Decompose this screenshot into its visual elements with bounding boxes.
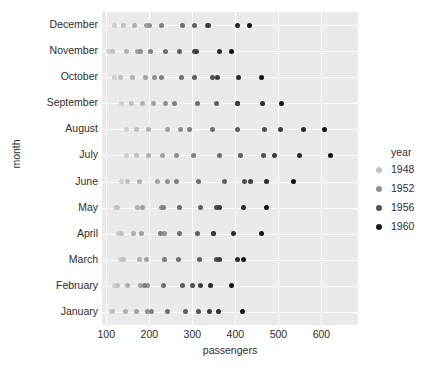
data-point bbox=[208, 283, 213, 288]
data-point bbox=[259, 75, 264, 80]
data-point bbox=[140, 205, 145, 210]
data-point bbox=[163, 101, 168, 106]
data-point bbox=[196, 179, 201, 184]
y-tick-label-january: January bbox=[2, 306, 98, 317]
data-point bbox=[125, 179, 130, 184]
plot-panel bbox=[102, 12, 358, 325]
data-point bbox=[115, 205, 120, 210]
data-point bbox=[159, 75, 164, 80]
data-point bbox=[165, 309, 170, 314]
data-point bbox=[161, 205, 166, 210]
data-point bbox=[155, 179, 160, 184]
data-point bbox=[236, 75, 241, 80]
y-gridline bbox=[102, 129, 358, 130]
data-point bbox=[110, 309, 115, 314]
x-tick-label-500: 500 bbox=[258, 328, 298, 340]
data-point bbox=[139, 231, 144, 236]
data-point bbox=[217, 257, 222, 262]
data-point bbox=[183, 309, 188, 314]
data-point bbox=[210, 127, 215, 132]
data-point bbox=[132, 23, 137, 28]
legend: year 1948195219561960 bbox=[372, 146, 442, 242]
data-point bbox=[215, 75, 220, 80]
data-point bbox=[192, 75, 197, 80]
y-tick-label-march: March bbox=[2, 254, 98, 265]
data-point bbox=[207, 309, 212, 314]
data-point bbox=[137, 257, 142, 262]
data-point bbox=[130, 75, 135, 80]
x-tick-label-100: 100 bbox=[86, 328, 126, 340]
y-tick-label-may: May bbox=[2, 202, 98, 213]
legend-item-label: 1960 bbox=[391, 220, 414, 232]
data-point bbox=[241, 205, 246, 210]
x-tick-label-600: 600 bbox=[301, 328, 341, 340]
legend-item-1960: 1960 bbox=[372, 219, 442, 236]
data-point bbox=[229, 49, 234, 54]
data-point bbox=[174, 179, 179, 184]
data-point bbox=[115, 283, 120, 288]
data-point bbox=[161, 283, 166, 288]
data-point bbox=[159, 23, 164, 28]
data-point bbox=[180, 23, 185, 28]
data-point bbox=[147, 23, 152, 28]
data-point bbox=[131, 231, 136, 236]
data-point bbox=[264, 205, 269, 210]
legend-item-label: 1952 bbox=[391, 182, 414, 194]
data-point bbox=[248, 179, 253, 184]
data-point bbox=[235, 101, 240, 106]
data-point bbox=[118, 75, 123, 80]
y-tick-label-february: February bbox=[2, 280, 98, 291]
data-point bbox=[297, 153, 302, 158]
data-point bbox=[235, 23, 240, 28]
data-point bbox=[146, 153, 151, 158]
data-point bbox=[119, 101, 124, 106]
data-point bbox=[152, 75, 157, 80]
data-point bbox=[240, 309, 245, 314]
legend-item-label: 1948 bbox=[391, 163, 414, 175]
data-point bbox=[187, 127, 192, 132]
data-point bbox=[165, 127, 170, 132]
x-gridline bbox=[106, 12, 107, 325]
data-point bbox=[151, 101, 156, 106]
data-point bbox=[123, 309, 128, 314]
x-tick-label-200: 200 bbox=[129, 328, 169, 340]
data-point bbox=[206, 23, 211, 28]
y-axis-label: month bbox=[10, 124, 22, 184]
data-point bbox=[124, 49, 129, 54]
y-gridline bbox=[102, 25, 358, 26]
data-point bbox=[178, 127, 183, 132]
data-point bbox=[192, 23, 197, 28]
data-point bbox=[264, 179, 269, 184]
data-point bbox=[134, 309, 139, 314]
y-gridline bbox=[102, 77, 358, 78]
data-point bbox=[247, 23, 252, 28]
data-point bbox=[235, 127, 240, 132]
data-point bbox=[129, 101, 134, 106]
data-point bbox=[198, 283, 203, 288]
data-point bbox=[172, 101, 177, 106]
data-point bbox=[260, 101, 265, 106]
legend-marker-icon bbox=[376, 205, 382, 211]
x-gridline bbox=[321, 12, 322, 325]
y-gridline bbox=[102, 155, 358, 156]
y-tick-label-october: October bbox=[2, 71, 98, 82]
data-point bbox=[191, 153, 196, 158]
data-point bbox=[112, 75, 117, 80]
x-tick-label-400: 400 bbox=[215, 328, 255, 340]
y-tick-label-november: November bbox=[2, 45, 98, 56]
data-point bbox=[180, 283, 185, 288]
data-point bbox=[328, 153, 333, 158]
data-point bbox=[119, 231, 124, 236]
x-gridline bbox=[192, 12, 193, 325]
data-point bbox=[214, 101, 219, 106]
data-point bbox=[198, 205, 203, 210]
legend-item-1952: 1952 bbox=[372, 181, 442, 198]
data-point bbox=[217, 49, 222, 54]
data-point bbox=[177, 205, 182, 210]
flights-strip-plot-figure: DecemberNovemberOctoberSeptemberAugustJu… bbox=[0, 0, 444, 384]
data-point bbox=[190, 283, 195, 288]
data-point bbox=[174, 153, 179, 158]
x-axis-label: passengers bbox=[102, 344, 358, 356]
data-point bbox=[222, 179, 227, 184]
x-axis-tick-labels: 100200300400500600 bbox=[102, 328, 358, 342]
